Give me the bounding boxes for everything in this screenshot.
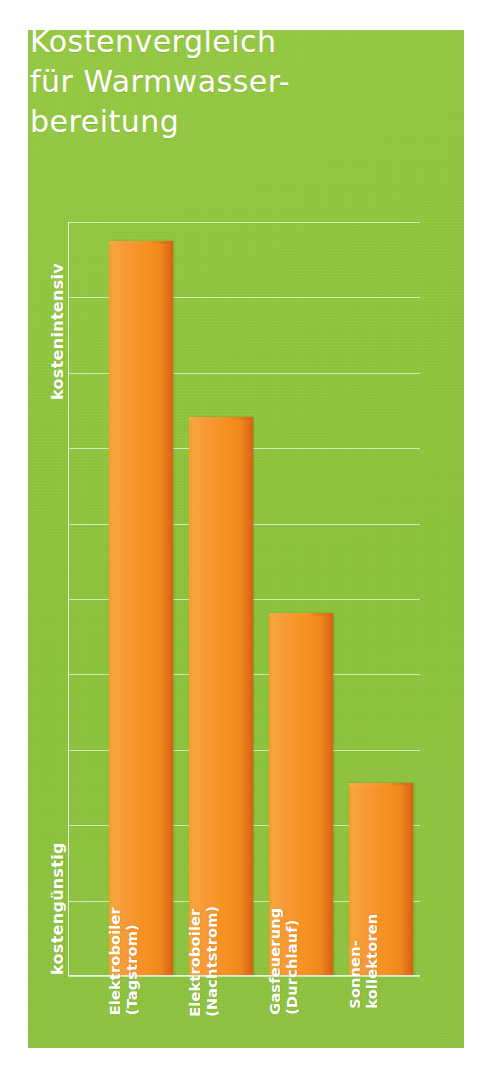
bar-label: Gasfeuerung (Durchlauf) [267,908,301,1015]
bar: Gasfeuerung (Durchlauf) [269,613,333,975]
bar: Elektroboiler (Tagstrom) [109,241,173,975]
bar: Elektroboiler (Nachtstrom) [189,417,253,975]
bar-series: Elektroboiler (Tagstrom)Elektroboiler (N… [68,222,420,976]
page-title: Kostenvergleich für Warmwasser- bereitun… [30,22,420,142]
plot-area: Elektroboiler (Tagstrom)Elektroboiler (N… [68,222,420,976]
chart-page: Kostenvergleich für Warmwasser- bereitun… [0,0,492,1078]
y-axis-top-label: kostenintensiv [48,263,67,400]
bar-label: Sonnen- kollektoren [347,913,381,1008]
bar-label: Elektroboiler (Tagstrom) [107,907,141,1015]
bar: Sonnen- kollektoren [349,783,413,975]
bar-label: Elektroboiler (Nachtstrom) [187,905,221,1016]
y-axis-bottom-label: kostengünstig [48,842,67,975]
